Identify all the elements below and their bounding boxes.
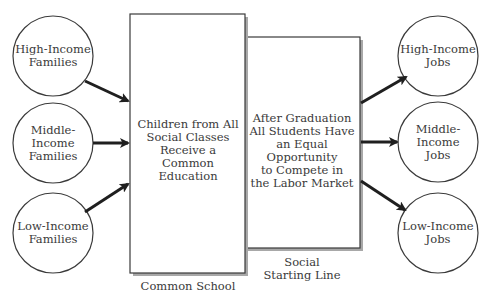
starting-line-text: After Graduation All Students Have an Eq… [246, 112, 358, 190]
high-income-jobs-label: High-Income Jobs [398, 16, 478, 96]
middle-income-jobs-label: Middle- Income Jobs [398, 102, 478, 182]
middle-income-families-label: Middle- Income Families [13, 103, 93, 183]
common-school-caption: Common School [132, 280, 244, 293]
low-income-families-label: Low-Income Families [13, 193, 93, 273]
low-income-jobs-label: Low-Income Jobs [398, 193, 478, 273]
high-income-families-label: High-Income Families [13, 16, 93, 96]
common-school-text: Children from All Social Classes Receive… [132, 118, 244, 183]
starting-line-caption: Social Starting Line [246, 256, 358, 282]
